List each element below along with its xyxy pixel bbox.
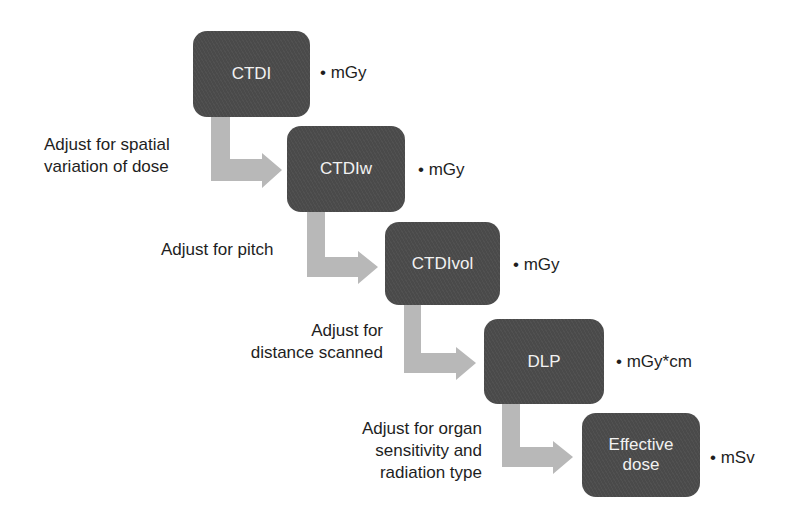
ctdi-box: CTDI [193,31,310,117]
adjustment-line: sensitivity and [362,440,482,462]
adjustment-line: Adjust for organ [362,418,482,440]
dlp-label: DLP [527,352,560,372]
elbow-arrow-4 [502,404,573,474]
ctdiw-unit: • mGy [418,160,465,180]
elbow-arrow-3 [404,305,476,380]
adjustment-label-pitch: Adjust for pitch [161,239,273,261]
ctdi-label: CTDI [232,64,272,84]
elbow-arrow-1 [211,117,282,188]
ctdi-unit: • mGy [320,63,367,83]
effective-dose-label-line2: dose [623,455,660,475]
elbow-arrow-2 [307,212,378,284]
adjustment-label-spatial: Adjust for spatial variation of dose [44,134,170,178]
adjustment-line: Adjust for spatial [44,134,170,156]
ctdivol-label: CTDIvol [412,254,473,274]
effective-dose-unit: • mSv [710,448,755,468]
ctdivol-unit: • mGy [513,255,560,275]
adjustment-label-distance: Adjust for distance scanned [251,320,383,364]
ctdiw-label: CTDIw [320,159,372,179]
adjustment-line: radiation type [362,462,482,484]
effective-dose-label-line1: Effective [609,435,674,455]
adjustment-line: Adjust for [251,320,383,342]
adjustment-label-organ: Adjust for organ sensitivity and radiati… [362,418,482,484]
ctdiw-box: CTDIw [287,126,405,212]
dlp-unit: • mGy*cm [616,352,692,372]
adjustment-line: Adjust for pitch [161,239,273,261]
ctdivol-box: CTDIvol [385,222,500,305]
adjustment-line: distance scanned [251,342,383,364]
dlp-box: DLP [484,319,604,404]
effective-dose-box: Effective dose [582,413,700,497]
adjustment-line: variation of dose [44,156,170,178]
